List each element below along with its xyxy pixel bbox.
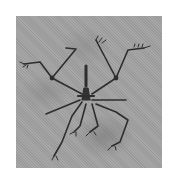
right-upper-arm	[96, 40, 116, 78]
torso	[82, 88, 90, 100]
fossil-photo	[16, 16, 162, 168]
right-wing	[92, 48, 144, 94]
right-hind-limb	[96, 104, 128, 146]
right-leg	[90, 104, 98, 132]
left-foot	[74, 104, 86, 132]
fossil-skeleton	[16, 16, 162, 168]
left-upper-arm	[52, 48, 76, 78]
